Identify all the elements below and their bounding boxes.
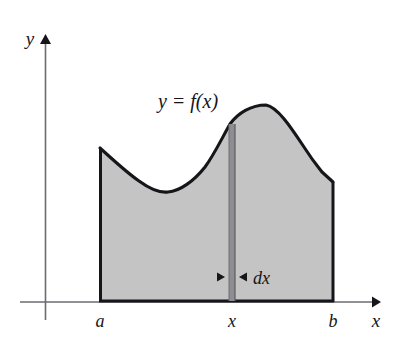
curve-equation-label: y = f(x)	[156, 90, 218, 113]
up-arrow-icon	[40, 34, 51, 44]
dx-strip	[229, 124, 235, 301]
figure-canvas: y = f(x) y x a x b dx	[0, 0, 400, 341]
y-axis-label: y	[24, 28, 35, 49]
differential-label: dx	[253, 268, 270, 288]
dx-strip-group	[229, 124, 235, 301]
x-axis-label: x	[371, 310, 381, 331]
sample-point-tick-label: x	[227, 311, 236, 331]
left-bound-tick-label: a	[96, 311, 105, 331]
integral-area-figure: y = f(x) y x a x b dx	[0, 0, 400, 341]
right-arrow-icon	[372, 297, 381, 308]
area-under-curve-group	[99, 105, 334, 302]
shaded-region	[100, 105, 333, 302]
right-bound-tick-label: b	[329, 311, 338, 331]
